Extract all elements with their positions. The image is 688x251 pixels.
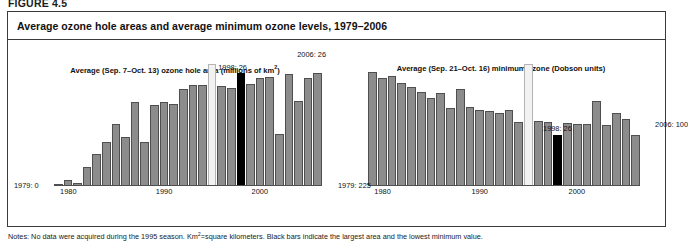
figure-number: FIGURE 4.5 — [8, 0, 67, 9]
bar — [208, 64, 217, 186]
bar — [378, 78, 387, 186]
bar — [256, 78, 265, 186]
bar — [475, 110, 484, 186]
x-tick-label: 2000 — [569, 187, 585, 196]
bar — [407, 87, 416, 186]
x-tick-label: 1990 — [471, 187, 487, 196]
bar — [602, 125, 611, 187]
bar — [495, 113, 504, 186]
bar — [368, 72, 377, 186]
annotation-label-right: 1998: 26 — [543, 124, 572, 133]
bar — [246, 84, 255, 186]
bar — [583, 124, 592, 186]
bar — [592, 101, 601, 186]
bar — [485, 111, 494, 186]
bar — [417, 92, 426, 186]
figure-notes: Notes: No data were acquired during the … — [8, 231, 668, 242]
bar — [83, 167, 92, 186]
endpoint-label-end-right: 2006: 100 — [655, 120, 688, 129]
notes-prefix: Notes: No data were acquired during the … — [8, 232, 198, 241]
bar — [140, 142, 149, 186]
bar — [227, 88, 236, 186]
plot-area-left: 198019902000 1979: 0 2006: 26 1998: 26 — [54, 64, 322, 186]
bar — [112, 124, 121, 186]
x-axis-left — [54, 185, 322, 186]
x-tick-label: 1980 — [60, 187, 76, 196]
bar — [622, 119, 631, 186]
bar — [534, 121, 543, 186]
bar — [524, 64, 533, 186]
bar — [427, 98, 436, 186]
endpoint-label-start-left: 1979: 0 — [14, 181, 39, 190]
bar — [436, 93, 445, 186]
x-tick-label: 1990 — [156, 187, 172, 196]
bar — [505, 110, 514, 186]
bar — [553, 135, 562, 186]
bar — [237, 73, 246, 186]
bar — [612, 113, 621, 186]
bar — [275, 134, 284, 186]
chart-ozone-hole-area: Average (Sep. 7–Oct. 13) ozone hole area… — [12, 46, 338, 226]
bar — [179, 89, 188, 186]
bar — [573, 124, 582, 186]
bar — [397, 83, 406, 186]
x-tick-labels-left: 198019902000 — [54, 187, 322, 199]
page-title: Average ozone hole areas and average min… — [17, 20, 387, 32]
x-tick-labels-right: 198019902000 — [368, 187, 640, 199]
bar — [446, 108, 455, 186]
chart-minimum-ozone: Average (Sep. 21–Oct. 16) minimum ozone … — [338, 46, 664, 226]
bar — [285, 74, 294, 186]
bar — [466, 107, 475, 186]
bar — [217, 86, 226, 186]
bar-series-right — [368, 64, 640, 186]
endpoint-label-start-right: 1979: 225 — [338, 181, 371, 190]
bar — [92, 154, 101, 186]
notes-suffix: =square kilometers. Black bars indicate … — [201, 232, 483, 241]
bar — [265, 77, 274, 186]
bar — [160, 102, 169, 186]
bar — [198, 85, 207, 186]
bar — [388, 76, 397, 186]
bar — [456, 89, 465, 186]
bar — [189, 85, 198, 186]
bar — [304, 78, 313, 186]
bar — [102, 142, 111, 186]
figure-panel: Average ozone hole areas and average min… — [7, 11, 666, 227]
bar — [631, 135, 640, 186]
x-tick-label: 2000 — [252, 187, 268, 196]
annotation-label-left: 1998: 26 — [218, 63, 247, 72]
x-tick-label: 1980 — [374, 187, 390, 196]
bar-series-left — [54, 64, 322, 186]
bar — [514, 122, 523, 186]
bar — [313, 73, 322, 186]
bar — [121, 137, 130, 186]
title-divider — [8, 39, 665, 40]
x-axis-right — [368, 185, 640, 186]
bar — [169, 104, 178, 186]
bar — [294, 101, 303, 186]
endpoint-label-end-left: 2006: 26 — [297, 50, 326, 59]
bar — [150, 105, 159, 186]
bar — [131, 102, 140, 186]
plot-area-right: 198019902000 1979: 225 2006: 100 1998: 2… — [368, 64, 640, 186]
